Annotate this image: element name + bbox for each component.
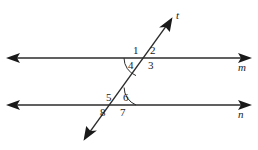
- angle-label-8: 8: [100, 107, 106, 118]
- line-t-group: [84, 17, 173, 141]
- angle-label-6: 6: [123, 92, 129, 103]
- line-label-n: n: [238, 109, 244, 120]
- angle-label-5: 5: [106, 92, 112, 103]
- line-label-m: m: [238, 62, 246, 73]
- angle-label-1: 1: [133, 45, 139, 56]
- line-t-bottom-arrowhead: [84, 126, 97, 141]
- angle-label-2: 2: [150, 45, 156, 56]
- angle-label-7: 7: [120, 107, 126, 118]
- geometry-figure: 1 2 3 4 5 6 7 8 m n t: [0, 0, 258, 150]
- line-t-top-arrowhead: [159, 17, 172, 32]
- geometry-canvas: [0, 0, 258, 150]
- line-label-t: t: [176, 10, 179, 21]
- angle-label-4: 4: [128, 60, 134, 71]
- angle-label-3: 3: [148, 60, 154, 71]
- line-n-group: [6, 100, 252, 110]
